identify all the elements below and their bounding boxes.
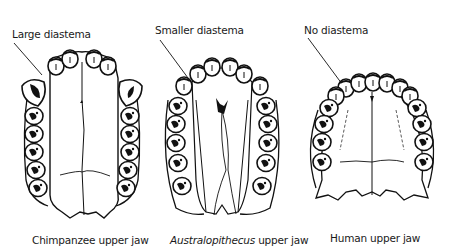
human-caption-text: Human upper jaw [330,232,420,244]
human-diastema-label: No diastema [304,24,368,36]
chimpanzee-caption: Chimpanzee upper jaw [32,234,149,246]
chimpanzee-jaw [14,43,142,218]
chimpanzee-leader-line [14,43,42,75]
australopithecus-caption: Australopithecus upper jaw [170,234,308,246]
human-caption: Human upper jaw [330,232,420,244]
australopithecus-jaw [160,40,279,215]
human-jaw [308,38,434,200]
australopithecus-caption-text: upper jaw [255,234,308,246]
australopithecus-caption-italic: Australopithecus [170,234,255,246]
chimpanzee-caption-text: Chimpanzee upper jaw [32,234,149,246]
australopithecus-leader-line [160,40,188,78]
chimpanzee-diastema-label: Large diastema [12,28,91,40]
jaw-comparison-figure: Large diastema Smaller diastema No diast… [0,0,456,250]
human-leader-line [308,38,345,88]
australopithecus-diastema-label: Smaller diastema [155,24,244,36]
